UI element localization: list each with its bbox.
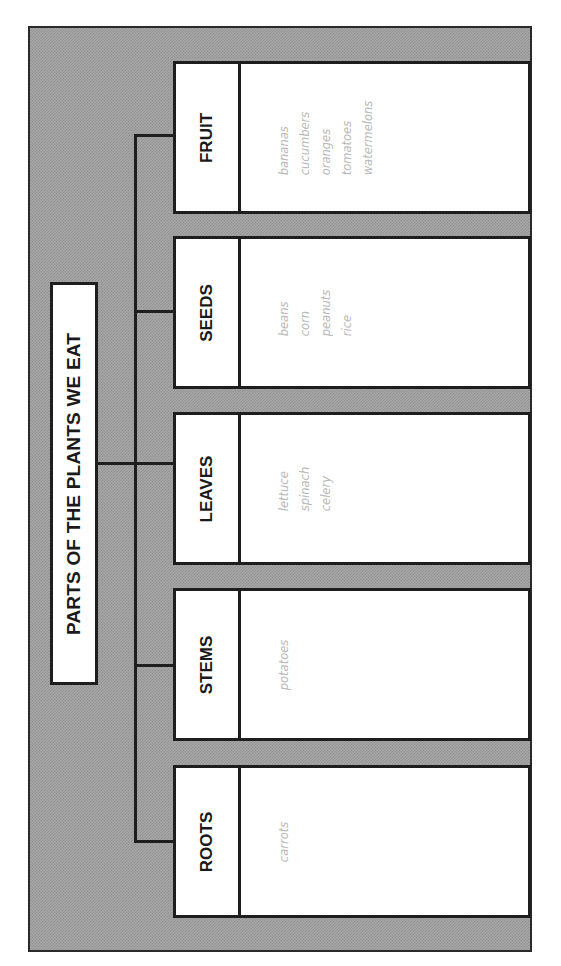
connector-fruit (134, 134, 173, 137)
connector-stems (134, 664, 173, 667)
list-item: carrots (274, 821, 295, 861)
category-items: beans corn peanuts rice (274, 289, 358, 336)
list-item: rice (337, 314, 358, 335)
category-label-cell: FRUIT (176, 64, 241, 211)
category-label: LEAVES (197, 455, 217, 522)
list-item: celery (316, 476, 337, 511)
category-seeds: SEEDS beans corn peanuts rice (173, 236, 531, 389)
category-stems: STEMS potatoes (173, 588, 531, 741)
category-roots: ROOTS carrots (173, 765, 531, 918)
list-item: oranges (316, 128, 337, 174)
connector-roots (134, 840, 173, 843)
category-label-cell: STEMS (176, 591, 241, 738)
category-label-cell: LEAVES (176, 415, 241, 562)
list-item: corn (295, 310, 316, 335)
diagram-title: PARTS OF THE PLANTS WE EAT (63, 332, 85, 634)
list-item: watermelons (358, 100, 379, 175)
list-item: bananas (274, 126, 295, 175)
connector-trunk (134, 134, 137, 842)
list-item: potatoes (274, 639, 295, 690)
category-items: carrots (274, 821, 295, 861)
category-label: FRUIT (197, 112, 217, 162)
list-item: beans (274, 301, 295, 336)
list-item: tomatoes (337, 120, 358, 174)
category-label-cell: ROOTS (176, 768, 241, 915)
connector-seeds (134, 310, 173, 313)
list-item: peanuts (316, 289, 337, 336)
category-items: potatoes (274, 639, 295, 690)
category-label-cell: SEEDS (176, 239, 241, 386)
list-item: lettuce (274, 471, 295, 511)
category-leaves: LEAVES lettuce spinach celery (173, 412, 531, 565)
category-fruit: FRUIT bananas cucumbers oranges tomatoes… (173, 61, 531, 214)
connector-title (98, 462, 173, 465)
category-items: bananas cucumbers oranges tomatoes water… (274, 100, 379, 175)
list-item: cucumbers (295, 111, 316, 175)
category-label: STEMS (197, 635, 217, 694)
category-items: lettuce spinach celery (274, 466, 337, 510)
category-label: SEEDS (197, 284, 217, 342)
category-label: ROOTS (197, 811, 217, 871)
title-box: PARTS OF THE PLANTS WE EAT (50, 282, 98, 685)
list-item: spinach (295, 466, 316, 510)
